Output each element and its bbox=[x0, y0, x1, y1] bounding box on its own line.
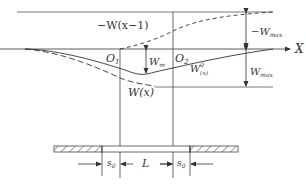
label-wm: Wm bbox=[149, 56, 165, 68]
seam-plate bbox=[102, 146, 190, 152]
label-w0x: W0(x) bbox=[190, 61, 209, 76]
subsidence-diagram: −W(x−1) X O1 O2 Wm W0(x) W(x) −Wmax Wmax… bbox=[0, 0, 306, 186]
label-s0-left: s0 bbox=[107, 158, 116, 169]
label-o1: O1 bbox=[106, 52, 120, 66]
label-wx: W(x) bbox=[128, 86, 154, 99]
left-hatched-block bbox=[54, 146, 102, 152]
label-wmax: Wmax bbox=[250, 66, 274, 78]
label-s0-right: s0 bbox=[177, 158, 186, 169]
label-neg-wmax: −Wmax bbox=[251, 26, 283, 38]
label-o2: O2 bbox=[175, 52, 189, 66]
right-hatched-block bbox=[190, 146, 238, 152]
label-L: L bbox=[141, 157, 149, 170]
label-neg-w-shifted: −W(x−1) bbox=[97, 19, 149, 32]
label-axis-x: X bbox=[294, 42, 304, 56]
wx-dashed-curve bbox=[25, 49, 155, 86]
